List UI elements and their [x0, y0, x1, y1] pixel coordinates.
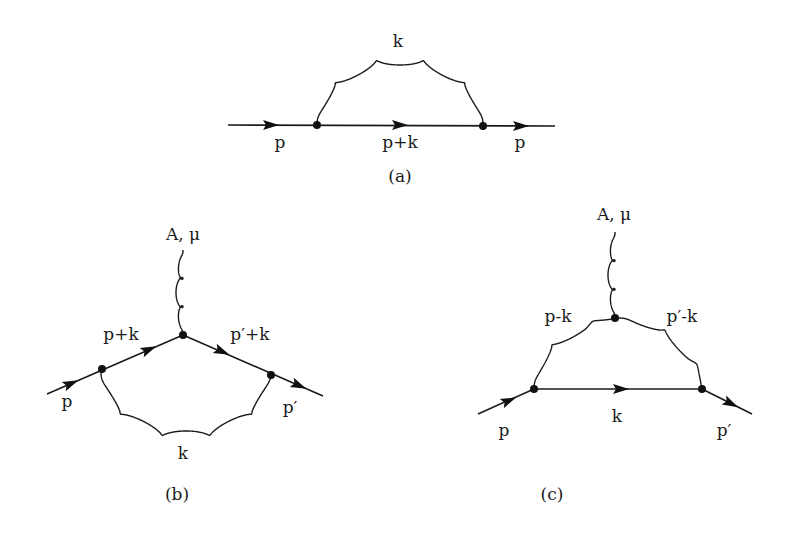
left-internal-momentum-label: p+k — [103, 324, 139, 344]
gluon-momentum-label: k — [393, 31, 404, 51]
left-gluon-momentum-label: p-k — [545, 306, 573, 326]
feynman-diagrams-figure: k p p+k p (a) A, μ p p+k p′+k p′ k (b) — [0, 0, 793, 559]
gluon-arc-right — [618, 318, 702, 389]
caption-a: (a) — [388, 166, 411, 186]
external-field-label: A, μ — [596, 204, 631, 224]
incoming-momentum-label: p — [275, 132, 286, 152]
gluon-arc — [101, 372, 271, 435]
vertex-dot — [698, 385, 706, 393]
vertex-dot — [530, 385, 538, 393]
arrow-icon — [290, 378, 309, 394]
vertex-dot — [313, 121, 321, 129]
right-gluon-momentum-label: p′-k — [667, 306, 698, 326]
vertex-dot — [611, 314, 619, 322]
arrow-icon — [62, 376, 81, 392]
internal-momentum-label: p+k — [382, 132, 418, 152]
diagram-a: k p p+k p (a) — [228, 31, 555, 186]
external-field-label: A, μ — [165, 224, 200, 244]
external-gluon — [608, 232, 615, 318]
diagram-b: A, μ p p+k p′+k p′ k (b) — [47, 224, 323, 504]
diagram-c: A, μ p-k p′-k p k p′ (c) — [478, 204, 752, 504]
incoming-momentum-label: p — [62, 391, 73, 411]
outgoing-momentum-label: p — [515, 132, 526, 152]
arrow-icon — [722, 395, 741, 411]
arrow-icon — [500, 393, 519, 409]
gluon-arc — [317, 61, 483, 125]
gluon-momentum-label: k — [178, 443, 189, 463]
internal-momentum-label: k — [612, 406, 623, 426]
incoming-momentum-label: p — [499, 420, 510, 440]
vertex-dot — [479, 122, 487, 130]
caption-b: (b) — [165, 484, 189, 504]
outgoing-momentum-label: p′ — [717, 420, 732, 440]
vertex-dot — [98, 365, 106, 373]
arrow-icon — [140, 342, 159, 358]
outgoing-momentum-label: p′ — [283, 397, 298, 417]
vertex-dot — [179, 331, 187, 339]
arrow-icon — [213, 344, 232, 360]
gluon-arc-left — [534, 318, 618, 389]
caption-c: (c) — [541, 484, 564, 504]
vertex-dot — [267, 371, 275, 379]
right-internal-momentum-label: p′+k — [230, 324, 270, 344]
external-gluon — [176, 250, 183, 335]
